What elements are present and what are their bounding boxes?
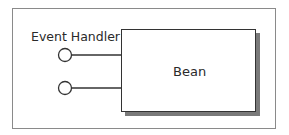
port-2-connector [59,82,122,95]
port-1-circle-icon [59,49,72,62]
connectors [0,0,289,135]
port-2-circle-icon [59,82,72,95]
port-1-connector [59,49,122,62]
